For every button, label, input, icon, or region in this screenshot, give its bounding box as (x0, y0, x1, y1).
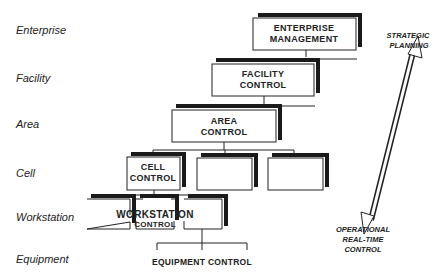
control-label: CONTROL (344, 245, 381, 254)
workstation-line2: CONTROL (134, 220, 176, 229)
equipment-bracket (157, 229, 247, 250)
hierarchy-diagram: ENTERPRISE MANAGEMENT FACILITY CONTROL A… (0, 0, 447, 277)
facility-line1: FACILITY (242, 69, 284, 79)
area-line2: CONTROL (201, 127, 248, 137)
facility-line2: CONTROL (240, 80, 287, 90)
planning-label: PLANNING (389, 41, 428, 50)
connector-line (153, 142, 294, 153)
connector-line (264, 50, 357, 59)
operational-label: OPERATIONAL (336, 225, 390, 234)
real-time-label: REAL-TIME (343, 235, 385, 244)
area-line1: AREA (211, 116, 238, 126)
enterprise-line1: ENTERPRISE (274, 23, 335, 33)
strategic-label: STRATEGIC (387, 31, 430, 40)
equipment-control-label: EQUIPMENT CONTROL (152, 257, 252, 267)
cell-line1: CELL (141, 162, 166, 172)
cell-control-box (127, 154, 184, 190)
enterprise-line2: MANAGEMENT (270, 34, 339, 44)
cell-line2: CONTROL (130, 173, 177, 183)
workstation-line1: WORKSTATION (116, 209, 193, 220)
cell-box-empty-2 (268, 155, 327, 190)
cell-box-empty-1 (197, 155, 256, 190)
double-arrow-icon (361, 36, 422, 234)
